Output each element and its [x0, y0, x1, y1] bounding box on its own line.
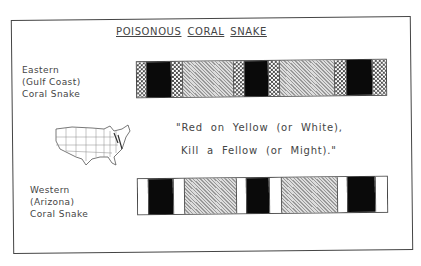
western-label: Western (Arizona) Coral Snake: [30, 184, 88, 220]
checker-ring: [137, 62, 146, 97]
label-line: (Gulf Coast): [22, 76, 81, 88]
black-ring: [146, 62, 171, 97]
checker-ring: [268, 61, 279, 96]
white-ring: [269, 178, 281, 213]
western-snake-band-pattern: [137, 176, 388, 216]
black-ring: [243, 61, 268, 96]
rhyme-line-2: Kill a Fellow (or Might).": [181, 145, 337, 156]
black-ring: [347, 177, 375, 212]
hatched-ring: [182, 61, 233, 97]
label-line: Coral Snake: [22, 88, 81, 100]
us-map-icon: [52, 123, 132, 169]
hatched-ring: [281, 177, 337, 213]
checker-ring: [334, 60, 346, 95]
white-ring: [138, 179, 148, 214]
title-word: SNAKE: [230, 26, 267, 37]
label-line: Western: [30, 184, 88, 196]
eastern-snake-band-pattern: [136, 59, 387, 99]
black-ring: [148, 179, 173, 214]
white-ring: [337, 177, 347, 212]
label-line: Coral Snake: [30, 208, 88, 220]
rhyme-line-1: "Red on Yellow (or White),: [176, 122, 343, 133]
black-ring: [245, 178, 269, 213]
white-ring: [173, 179, 184, 214]
title-word: POISONOUS: [116, 26, 182, 37]
white-ring: [375, 177, 387, 212]
diagram-title: POISONOUSCORALSNAKE: [116, 26, 273, 37]
eastern-label: Eastern (Gulf Coast) Coral Snake: [22, 64, 81, 100]
checker-ring: [232, 61, 243, 96]
hatched-ring: [279, 60, 334, 96]
checker-ring: [171, 62, 182, 97]
black-ring: [346, 60, 372, 95]
label-line: Eastern: [22, 64, 81, 76]
hatched-ring: [184, 178, 236, 214]
white-ring: [235, 178, 245, 213]
title-word: CORAL: [188, 26, 225, 37]
label-line: (Arizona): [30, 196, 88, 208]
checker-ring: [372, 60, 386, 95]
